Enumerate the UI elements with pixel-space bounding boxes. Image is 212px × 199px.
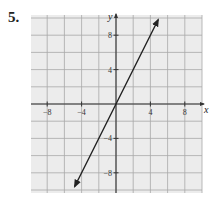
y-axis-label: y — [107, 11, 113, 22]
x-tick-label: 4 — [148, 108, 152, 117]
y-tick-label: −8 — [103, 169, 112, 178]
coordinate-plane: xy−8−44884−4−8 — [0, 0, 212, 199]
x-tick-label: −8 — [43, 108, 52, 117]
x-tick-label: −4 — [77, 108, 86, 117]
y-tick-label: 8 — [108, 31, 112, 40]
x-tick-label: 8 — [183, 108, 187, 117]
y-tick-label: 4 — [108, 66, 112, 75]
x-axis-label: x — [203, 104, 209, 115]
y-tick-label: −4 — [103, 134, 112, 143]
